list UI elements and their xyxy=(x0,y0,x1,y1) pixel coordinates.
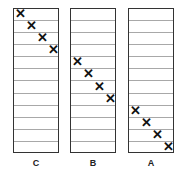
grid-row xyxy=(71,130,115,142)
grid-row xyxy=(14,57,58,69)
grid-row xyxy=(14,106,58,118)
x-mark-icon: ✕ xyxy=(72,55,83,69)
grid-row xyxy=(129,45,173,57)
grid-row: ✕ xyxy=(71,69,115,81)
grid-row xyxy=(14,142,58,154)
x-mark-icon: ✕ xyxy=(94,80,105,94)
x-mark-icon: ✕ xyxy=(141,116,152,130)
grid-row xyxy=(71,106,115,118)
grid-row xyxy=(71,142,115,154)
grid-row xyxy=(129,9,173,21)
grid-row xyxy=(14,82,58,94)
grid-row: ✕ xyxy=(129,118,173,130)
column-label: C xyxy=(13,158,59,168)
grid-row xyxy=(14,118,58,130)
column-label: A xyxy=(128,158,174,168)
grid-row xyxy=(129,82,173,94)
grid-row xyxy=(14,94,58,106)
x-mark-icon: ✕ xyxy=(37,31,48,45)
column-label: B xyxy=(70,158,116,168)
grid-row xyxy=(71,118,115,130)
grid-row xyxy=(71,9,115,21)
grid-row xyxy=(14,69,58,81)
grid-row xyxy=(129,33,173,45)
x-mark-icon: ✕ xyxy=(26,19,37,33)
grid-row: ✕ xyxy=(129,142,173,154)
x-mark-icon: ✕ xyxy=(15,7,26,21)
column-a: ✕✕✕✕ xyxy=(128,8,174,153)
grid-row: ✕ xyxy=(71,94,115,106)
x-mark-icon: ✕ xyxy=(83,67,94,81)
grid-row: ✕ xyxy=(14,45,58,57)
x-mark-icon: ✕ xyxy=(163,140,174,154)
column-c: ✕✕✕✕ xyxy=(13,8,59,153)
grid-row xyxy=(129,69,173,81)
x-mark-icon: ✕ xyxy=(48,43,59,57)
grid-row xyxy=(71,21,115,33)
column-b: ✕✕✕✕ xyxy=(70,8,116,153)
grid-row: ✕ xyxy=(14,21,58,33)
x-mark-icon: ✕ xyxy=(130,104,141,118)
grid-row xyxy=(14,130,58,142)
x-mark-icon: ✕ xyxy=(105,92,116,106)
grid-row xyxy=(129,21,173,33)
x-mark-icon: ✕ xyxy=(152,128,163,142)
grid-row xyxy=(71,33,115,45)
grid-row xyxy=(129,57,173,69)
